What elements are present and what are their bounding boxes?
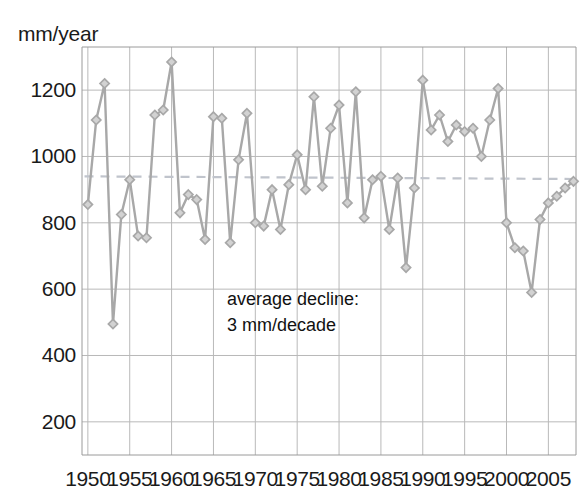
x-axis-tick-label: 1955 bbox=[107, 467, 152, 491]
x-axis-tick-label: 2005 bbox=[526, 467, 571, 491]
average-decline-annotation: average decline: 3 mm/decade bbox=[227, 286, 359, 338]
precipitation-line-chart: mm/year 20040060080010001200 19501955196… bbox=[0, 0, 584, 498]
x-axis-tick-label: 1960 bbox=[149, 467, 194, 491]
annotation-line-2: 3 mm/decade bbox=[227, 312, 359, 338]
x-axis-tick-label: 1995 bbox=[442, 467, 487, 491]
x-axis-tick-label: 1965 bbox=[191, 467, 236, 491]
annotation-line-1: average decline: bbox=[227, 286, 359, 312]
x-axis-tick-label: 1990 bbox=[400, 467, 445, 491]
x-axis-tick-labels: 1950195519601965197019751980198519901995… bbox=[0, 0, 584, 498]
x-axis-tick-label: 1950 bbox=[65, 467, 110, 491]
x-axis-tick-label: 1980 bbox=[316, 467, 361, 491]
x-axis-tick-label: 1985 bbox=[358, 467, 403, 491]
x-axis-tick-label: 1975 bbox=[275, 467, 320, 491]
x-axis-tick-label: 2000 bbox=[484, 467, 529, 491]
x-axis-tick-label: 1970 bbox=[233, 467, 278, 491]
